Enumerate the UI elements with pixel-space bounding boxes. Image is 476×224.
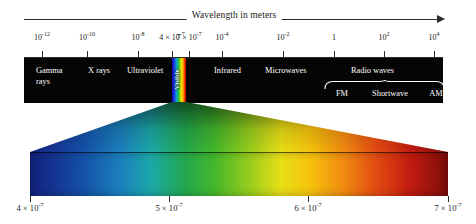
top-axis-tick-label: 7 × 10-7 (176, 33, 202, 43)
wavelength-axis-header: Wavelength in meters (24, 10, 444, 28)
band-label-infrared: Infrared (214, 66, 241, 77)
top-axis-tick-label: 10-8 (132, 33, 145, 43)
band-label-gamma-rays: Gammarays (36, 66, 63, 87)
radio-subband-fm: FM (336, 89, 348, 98)
top-axis-tick (189, 51, 190, 57)
bottom-axis-tick (448, 196, 449, 202)
top-axis-tick-label: 10-2 (277, 33, 290, 43)
top-axis-tick (42, 51, 43, 57)
visible-light-bar (30, 152, 448, 196)
visible-light-bar-topline (30, 152, 448, 153)
top-axis-tick (334, 51, 335, 57)
radio-brace-icon (324, 80, 443, 89)
page-title: Wavelength in meters (187, 10, 282, 20)
radio-subband-shortwave: Shortwave (372, 89, 408, 98)
top-axis-tick (138, 51, 139, 57)
bottom-axis-tick (169, 196, 170, 202)
top-axis-tick (222, 51, 223, 57)
band-label-microwaves: Microwaves (265, 66, 306, 77)
radio-subband-am: AM (429, 89, 443, 98)
band-label-x-rays: X rays (88, 66, 110, 77)
top-axis-tick (172, 51, 173, 57)
top-axis: 10-1210-1010-84 × 10-77 × 10-710-410-211… (0, 33, 476, 59)
top-axis-tick-label: 104 (429, 33, 440, 43)
top-axis-tick-label: 10-10 (79, 33, 95, 43)
bottom-axis-tick-label: 5 × 10-7 (155, 203, 182, 214)
bottom-axis-tick-label: 4 × 10-7 (16, 203, 43, 214)
top-axis-tick (283, 51, 284, 57)
top-axis-tick-label: 1 (332, 33, 336, 43)
bottom-axis-tick (308, 196, 309, 202)
bottom-axis-tick (30, 196, 31, 202)
top-axis-tick-label: 102 (379, 33, 390, 43)
visible-label: Visible (173, 69, 185, 90)
electromagnetic-spectrum-figure: Wavelength in meters 10-1210-1010-84 × 1… (0, 0, 476, 224)
bottom-axis-tick-label: 7 × 10-7 (434, 203, 461, 214)
band-label-ultraviolet: Ultraviolet (127, 66, 163, 77)
top-axis-tick-label: 10-4 (216, 33, 229, 43)
right-arrow-icon (437, 15, 445, 23)
top-axis-tick (384, 51, 385, 57)
top-axis-tick (87, 51, 88, 57)
top-axis-tick-label: 10-12 (34, 33, 50, 43)
band-label-radio-waves: Radio waves (351, 66, 394, 77)
spectrum-band: GammaraysX raysUltravioletInfraredMicrow… (24, 58, 443, 103)
prism-expansion-fan (0, 102, 476, 154)
top-axis-tick (434, 51, 435, 57)
bottom-axis-tick-label: 6 × 10-7 (294, 203, 321, 214)
bottom-axis: 4 × 10-75 × 10-76 × 10-77 × 10-7 (0, 196, 476, 222)
